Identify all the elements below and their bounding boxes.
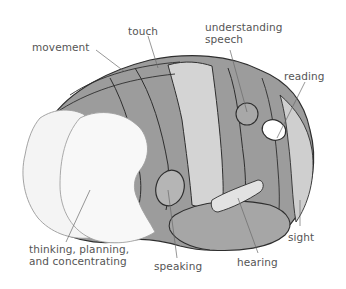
movement-leader [96, 50, 125, 72]
understanding-speech-region [236, 103, 258, 125]
label-understanding-speech-line1: understanding [205, 21, 283, 33]
label-touch: touch [128, 25, 158, 37]
label-thinking-planning-concentrating: thinking, planning, and concentrating [29, 243, 129, 267]
label-thinking-line2: and concentrating [29, 255, 129, 267]
label-movement: movement [32, 41, 90, 53]
label-understanding-speech: understanding speech [205, 21, 283, 45]
label-sight: sight [288, 231, 314, 243]
label-understanding-speech-line2: speech [205, 33, 283, 45]
brain-diagram: movement touch understanding speech read… [0, 0, 346, 289]
label-speaking: speaking [154, 260, 202, 272]
label-hearing: hearing [237, 256, 278, 268]
label-thinking-line1: thinking, planning, [29, 243, 129, 255]
label-reading: reading [284, 70, 325, 82]
